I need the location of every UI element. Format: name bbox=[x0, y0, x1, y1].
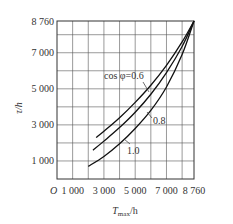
curve-08 bbox=[93, 21, 194, 150]
x-tick-label: 5 000 bbox=[124, 185, 147, 196]
y-tick-label: 1 000 bbox=[32, 155, 55, 166]
y-tick-label: 8 760 bbox=[32, 16, 55, 27]
grid bbox=[57, 21, 194, 179]
x-axis-sub: max bbox=[118, 210, 131, 218]
annotation-1-0: 1.0 bbox=[127, 145, 140, 156]
origin-label: O bbox=[50, 185, 57, 196]
annotation-leader-1-0 bbox=[124, 139, 130, 144]
annotation-0-8: 0.8 bbox=[153, 115, 166, 126]
x-tick-label: 1 000 bbox=[61, 185, 84, 196]
y-tick-label: 7 000 bbox=[32, 47, 55, 58]
x-axis-label: Tmax/h bbox=[112, 205, 137, 218]
y-tick-label: 5 000 bbox=[32, 83, 55, 94]
y-tick-labels: 1 0003 0005 0007 0008 760 bbox=[32, 16, 55, 167]
plot-frame bbox=[57, 21, 194, 179]
y-axis-label: τ/h bbox=[13, 102, 24, 113]
y-tick-label: 3 000 bbox=[32, 119, 55, 130]
x-tick-label: 8 760 bbox=[183, 185, 206, 196]
x-tick-label: 3 000 bbox=[93, 185, 116, 196]
x-axis-unit: /h bbox=[130, 205, 138, 216]
annotation-cos-0-6: cos φ=0.6 bbox=[104, 70, 144, 81]
x-tick-label: 7 000 bbox=[155, 185, 178, 196]
x-tick-labels: 1 0003 0005 0007 0008 760 bbox=[61, 185, 205, 196]
chart: 1 0003 0005 0007 0008 760 1 0003 0005 00… bbox=[0, 0, 233, 224]
